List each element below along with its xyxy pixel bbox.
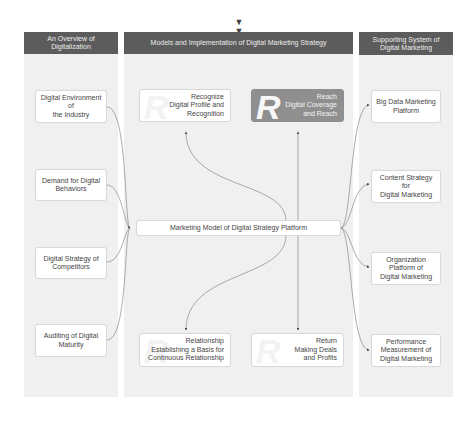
- card-label: Marketing Model of Digital Strategy Plat…: [170, 224, 307, 233]
- card-demand-digital-behaviors[interactable]: Demand for Digital Behaviors: [35, 169, 107, 201]
- card-content-strategy[interactable]: Content Strategy for Digital Marketing: [371, 170, 441, 203]
- card-label: Return Making Deals and Profits: [295, 337, 337, 363]
- support-header: Supporting System of Digital Marketing: [359, 32, 453, 55]
- card-label: Reach Digital Coverage and Reach: [285, 93, 337, 119]
- card-return[interactable]: R Return Making Deals and Profits: [251, 333, 344, 367]
- card-label: Performance Measurement of Digital Marke…: [380, 338, 432, 364]
- card-auditing-digital-maturity[interactable]: Auditing of Digital Maturity: [35, 324, 107, 357]
- card-digital-environment[interactable]: Digital Environment of the Industry: [35, 90, 107, 123]
- card-label: Demand for Digital Behaviors: [42, 177, 100, 194]
- card-relationship[interactable]: R Relationship Establishing a Basis for …: [139, 333, 231, 367]
- card-label: Recognize Digital Profile and Recognitio…: [169, 93, 224, 119]
- card-big-data-platform[interactable]: Big Data Marketing Platform: [371, 90, 441, 123]
- r-watermark-icon: R: [256, 91, 281, 123]
- r-watermark-icon: R: [144, 91, 169, 123]
- r-watermark-icon: R: [256, 335, 281, 367]
- card-recognize[interactable]: R Recognize Digital Profile and Recognit…: [139, 89, 231, 122]
- card-label: Auditing of Digital Maturity: [44, 332, 98, 349]
- strategy-header: Models and Implementation of Digital Mar…: [124, 32, 353, 54]
- card-organization-platform[interactable]: Organization Platform of Digital Marketi…: [371, 252, 441, 285]
- card-label: Organization Platform of Digital Marketi…: [380, 256, 432, 282]
- card-label: Digital Environment of the Industry: [40, 94, 102, 120]
- card-reach[interactable]: R Reach Digital Coverage and Reach: [251, 89, 344, 122]
- card-label: Relationship Establishing a Basis for Co…: [148, 337, 224, 363]
- card-label: Big Data Marketing Platform: [376, 98, 436, 115]
- card-digital-strategy-competitors[interactable]: Digital Strategy of Competitors: [35, 247, 107, 279]
- overview-header: An Overview of Digitalization: [24, 32, 118, 54]
- card-label: Content Strategy for Digital Marketing: [376, 174, 436, 200]
- card-performance-measurement[interactable]: Performance Measurement of Digital Marke…: [371, 334, 441, 367]
- support-header-label: Supporting System of Digital Marketing: [373, 36, 440, 52]
- card-label: Digital Strategy of Competitors: [43, 255, 98, 272]
- card-marketing-model-platform[interactable]: Marketing Model of Digital Strategy Plat…: [136, 220, 341, 236]
